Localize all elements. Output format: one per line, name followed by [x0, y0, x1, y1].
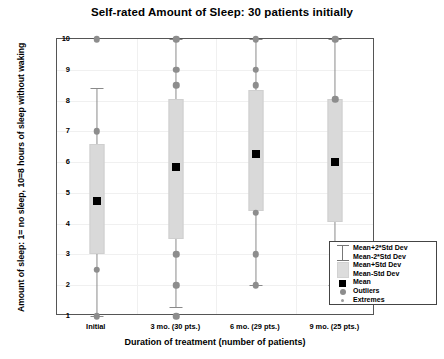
x-axis-tick-label: 3 mo. (30 pts.): [150, 322, 200, 331]
box-top-icon: [333, 261, 353, 270]
legend-item: Mean+Std Dev: [330, 261, 436, 270]
legend-item: Mean-2*Std Dev: [330, 253, 436, 262]
box-plot-chart: Self-rated Amount of Sleep: 30 patients …: [0, 0, 444, 359]
y-axis-tick-label: 3: [40, 249, 70, 258]
y-axis-tick-label: 6: [40, 157, 70, 166]
mean-marker: [331, 158, 339, 166]
y-axis-tick-label: 10: [40, 34, 70, 43]
box-bottom-icon: [333, 270, 353, 279]
plot-area: [56, 38, 374, 315]
legend-item-label: Extremes: [353, 296, 385, 305]
x-axis-label: Duration of treatment (number of patient…: [56, 337, 374, 347]
outlier-point: [332, 96, 339, 103]
outlier-point: [332, 36, 339, 43]
x-axis-tick-label: Initial: [86, 322, 105, 331]
whisker-top-icon: [333, 244, 353, 253]
box-plot-series: [57, 39, 373, 314]
whisker-bottom-icon: [333, 253, 353, 262]
legend-item-label: Mean+2*Std Dev: [353, 244, 408, 253]
mean-square-icon: [333, 278, 353, 287]
y-axis-tick-label: 9: [40, 64, 70, 73]
legend-item-label: Mean-2*Std Dev: [353, 253, 406, 262]
y-axis-tick-label: 2: [40, 280, 70, 289]
legend-item-label: Outliers: [353, 287, 379, 296]
legend-item-label: Mean-Std Dev: [353, 270, 399, 279]
y-axis-tick-label: 1: [40, 311, 70, 320]
x-axis-tick-label: 6 mo. (29 pts.): [230, 322, 280, 331]
legend-item: Mean: [330, 278, 436, 287]
legend-item: Mean+2*Std Dev: [330, 244, 436, 253]
y-axis-tick-label: 8: [40, 95, 70, 104]
legend-item: Outliers: [330, 287, 436, 296]
legend-item-label: Mean: [353, 278, 371, 287]
y-axis-tick-label: 7: [40, 126, 70, 135]
x-axis-tick-label: 9 mo. (25 pts.): [309, 322, 359, 331]
y-axis-label: Amount of sleep: 1= no sleep, 10=8 hours…: [16, 43, 26, 312]
outlier-circle-icon: [333, 287, 353, 296]
y-axis-tick-label: 5: [40, 187, 70, 196]
chart-title: Self-rated Amount of Sleep: 30 patients …: [0, 6, 444, 18]
legend-item: Extremes: [330, 296, 436, 305]
legend-item-label: Mean+Std Dev: [353, 261, 401, 270]
extreme-dot-icon: [333, 296, 353, 305]
y-axis-tick-label: 4: [40, 218, 70, 227]
legend: Mean+2*Std DevMean-2*Std DevMean+Std Dev…: [329, 241, 437, 305]
legend-item: Mean-Std Dev: [330, 270, 436, 279]
box-plot-group: [57, 39, 373, 314]
